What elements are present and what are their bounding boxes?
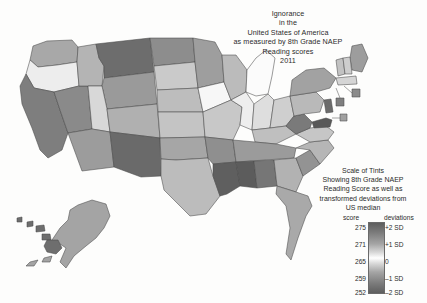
legend-score-259: 259 [336,275,366,282]
state-DE-box [340,114,347,121]
legend-gradient-bar [368,222,385,294]
title-line-1: Ignorance [214,9,362,18]
state-ND [150,38,195,66]
legend-deviation-zero: 0 [385,258,427,265]
legend-header-deviations: deviations [384,214,426,221]
state-AK [52,200,110,268]
state-SD [154,62,198,90]
legend-deviation-plus1sd: +1 SD [385,241,427,248]
legend-score-275: 275 [336,224,366,231]
choropleth-figure: Ignorance in the United States of Americ… [0,0,427,303]
state-TX [161,158,220,216]
legend-caption-line-3: Reading Score as well as [300,184,426,193]
state-RI-box [352,89,360,97]
state-AK-aleutians-2 [42,256,52,262]
state-MD [312,118,332,128]
state-NM [110,132,161,177]
state-KS [158,112,205,138]
state-OK [160,137,208,160]
title-year: 2011 [214,56,362,65]
map-title: Ignorance in the United States of Americ… [214,9,362,65]
state-AR [205,137,236,164]
state-WY [102,72,157,109]
legend-caption-line-2: Showing 8th Grade NAEP [300,175,426,184]
legend-caption: Scale of Tints Showing 8th Grade NAEP Re… [300,166,426,212]
legend-deviation-minus2sd: –2 SD [385,289,427,296]
legend-header-score: score [334,214,368,221]
legend-score-271: 271 [336,241,366,248]
state-AL [254,160,277,188]
state-HI-island-big [44,240,62,254]
legend-caption-line-5: US median [300,203,426,212]
state-AZ [68,129,114,171]
state-AK-aleutians [26,260,38,266]
state-HI-island-1 [17,217,22,222]
state-HI-island-2 [27,221,33,227]
legend-score-252: 252 [336,289,366,296]
title-line-2: in the [214,18,362,27]
state-MT [96,38,154,78]
state-NJ [324,99,333,113]
leader-line-ct [336,88,340,98]
legend-deviation-minus1sd: –1 SD [385,275,427,282]
title-line-3: United States of America [214,28,362,37]
state-HI-island-3 [36,225,45,232]
state-CT-box [336,98,344,106]
state-NE [157,88,203,112]
legend-caption-line-4: transformed deviations from [300,194,426,203]
legend-score-265: 265 [336,258,366,265]
legend-deviation-plus2sd: +2 SD [385,224,427,231]
state-HI-island-4 [42,234,51,240]
leader-line-ri [344,86,352,93]
title-line-5: Reading scores [214,47,362,56]
state-PA [290,92,324,116]
legend-caption-line-1: Scale of Tints [300,166,426,175]
state-NY [290,68,336,96]
title-line-4: as measured by 8th Grade NAEP [214,37,362,46]
state-MA [336,76,357,85]
